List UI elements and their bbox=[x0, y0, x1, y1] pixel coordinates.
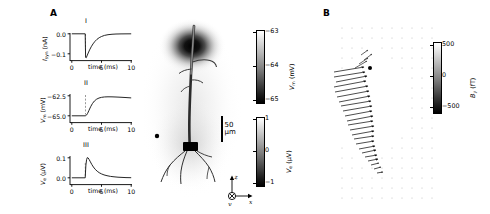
colorbar-vm: −63 −64 −65 Vm (mV) bbox=[256, 30, 263, 102]
figure-root: A I 0.0 −0.1 0 5 10 Isyn ( bbox=[0, 0, 490, 214]
colorbar-by-tick-mark-0 bbox=[430, 45, 433, 46]
trace-iii-ylabel: Ve (µV) bbox=[40, 163, 47, 185]
colorbar-by-tick-mark-2 bbox=[430, 107, 433, 108]
axes-indicator: z x y bbox=[218, 170, 258, 210]
trace-iii-xlabel: time (ms) bbox=[58, 188, 148, 194]
axis-y-label: y bbox=[227, 200, 232, 206]
trace-i-title: I bbox=[36, 18, 136, 25]
soma bbox=[183, 142, 198, 151]
trace-ii-ytick-1: −65.0 bbox=[47, 113, 66, 120]
colorbar-ve-tick-mark-0 bbox=[253, 119, 256, 120]
trace-i-xlabel: time (ms) bbox=[58, 64, 148, 70]
trace-ii-ytick-0: −62.5 bbox=[47, 93, 66, 100]
colorbar-vm-label: Vm (mV) bbox=[289, 64, 296, 90]
trace-plot-i: I 0.0 −0.1 0 5 10 Isyn (nA) bbox=[36, 27, 136, 73]
trace-ii-title: II bbox=[36, 80, 136, 87]
field-background bbox=[334, 20, 444, 205]
colorbar-by: 500 0 −500 By (fT) bbox=[433, 42, 440, 112]
trace-i-curve bbox=[72, 34, 131, 58]
axes-indicator-svg: z x y bbox=[218, 170, 258, 206]
panel-label-a: A bbox=[50, 9, 57, 18]
scale-bar-unit: µm bbox=[225, 128, 236, 136]
colorbar-by-label: By (fT) bbox=[470, 78, 477, 98]
colorbar-vm-tick-mark-0 bbox=[253, 32, 256, 33]
trace-plot-ii: II −62.5 −65.0 0 5 10 Vm (mV) time (ms) bbox=[36, 89, 136, 135]
colorbar-ve-label: Ve (µV) bbox=[286, 150, 293, 173]
trace-iii-title: III bbox=[36, 142, 136, 149]
trace-iii-curve bbox=[72, 158, 131, 178]
colorbar-ve-tick-1: 0 bbox=[265, 147, 269, 153]
colorbar-ve-strip bbox=[256, 117, 265, 187]
colorbar-by-tick-1: 0 bbox=[442, 72, 446, 78]
axis-x-label: x bbox=[249, 198, 253, 205]
colorbar-vm-tick-2: −65 bbox=[265, 96, 279, 102]
colorbar-vm-tick-0: −63 bbox=[265, 28, 279, 34]
trace-ii-ylabel: Vm (mV) bbox=[40, 97, 47, 123]
colorbar-by-tick-2: −500 bbox=[442, 103, 460, 109]
colorbar-by-tick-mark-1 bbox=[430, 76, 433, 77]
trace-i-ytick-0: 0.0 bbox=[56, 31, 66, 38]
trace-iii-ytick-1: 0.0 bbox=[56, 175, 66, 182]
colorbar-ve-tick-mark-1 bbox=[253, 151, 256, 152]
colorbar-vm-tick-mark-1 bbox=[253, 66, 256, 67]
colorbar-ve-tick-0: 1 bbox=[265, 115, 269, 121]
scale-bar-line bbox=[221, 116, 223, 142]
colorbar-vm-tick-1: −64 bbox=[265, 62, 279, 68]
magnetic-field-svg bbox=[334, 20, 444, 205]
magnetic-field-plot bbox=[334, 20, 444, 205]
trace-i-ytick-1: −0.1 bbox=[51, 51, 66, 58]
colorbar-by-tick-0: 500 bbox=[442, 41, 454, 47]
colorbar-ve: 1 0 −1 Ve (µV) bbox=[256, 117, 263, 185]
trace-ii-curve bbox=[72, 97, 131, 116]
trace-iii-ytick-0: 0.1 bbox=[56, 155, 66, 162]
colorbar-vm-strip bbox=[256, 30, 265, 104]
scale-bar-label: 50 µm bbox=[225, 122, 236, 136]
colorbar-ve-tick-mark-2 bbox=[253, 183, 256, 184]
trace-plot-iii: III 0.1 0.0 0 5 10 Ve (µV) time (ms) bbox=[36, 151, 136, 197]
colorbar-ve-tick-2: −1 bbox=[265, 179, 274, 185]
trace-i-ylabel: Isyn (nA) bbox=[42, 36, 49, 61]
colorbar-vm-tick-mark-2 bbox=[253, 100, 256, 101]
panel-label-b: B bbox=[323, 9, 330, 18]
scale-bar: 50 µm bbox=[221, 116, 236, 142]
colorbar-by-strip bbox=[433, 42, 442, 114]
axis-z-label: z bbox=[234, 173, 239, 180]
recording-site-marker bbox=[155, 134, 159, 138]
field-max-marker bbox=[368, 66, 372, 70]
trace-ii-xlabel: time (ms) bbox=[58, 126, 148, 132]
